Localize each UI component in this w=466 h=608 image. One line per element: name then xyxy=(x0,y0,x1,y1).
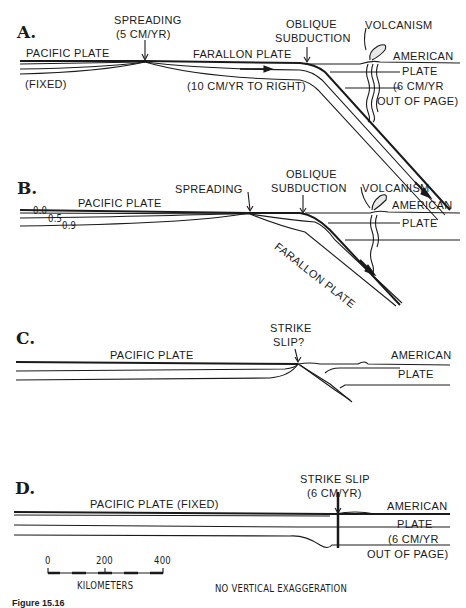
b-volcanism-label: VOLCANISM xyxy=(362,182,430,194)
b-american-label: AMERICAN xyxy=(392,199,452,211)
panel-c-lines xyxy=(16,349,450,402)
b-plate-label: PLATE xyxy=(402,217,438,229)
d-american-direction: OUT OF PAGE) xyxy=(367,548,448,560)
a-pacific-note: (FIXED) xyxy=(25,78,67,90)
panel-b-letter: B. xyxy=(17,178,37,198)
a-farallon-rate: (10 CM/YR TO RIGHT) xyxy=(187,80,306,92)
a-pacific-label: PACIFIC PLATE xyxy=(26,47,110,59)
c-strike-label-1: STRIKE xyxy=(270,322,312,334)
a-spreading-rate: (5 CM/YR) xyxy=(116,28,171,40)
d-american-label: AMERICAN xyxy=(387,500,447,512)
b-contour-1: 0.5 xyxy=(48,213,62,225)
d-pacific-label: PACIFIC PLATE (FIXED) xyxy=(90,498,219,510)
a-volcanism-label: VOLCANISM xyxy=(365,19,433,31)
d-american-rate: (6 CM/YR xyxy=(388,533,439,545)
d-strike-label-1: STRIKE SLIP xyxy=(300,473,370,485)
panel-d-lines xyxy=(14,492,450,573)
b-spreading-label: SPREADING xyxy=(175,183,243,195)
a-spreading-label: SPREADING xyxy=(114,14,182,26)
c-american-label: AMERICAN xyxy=(391,349,451,361)
a-oblique-label-2: SUBDUCTION xyxy=(275,32,351,44)
c-strike-label-2: SLIP? xyxy=(273,336,304,348)
b-contour-2: 0.9 xyxy=(62,220,76,232)
c-pacific-label: PACIFIC PLATE xyxy=(110,349,194,361)
a-farallon-label: FARALLON PLATE xyxy=(193,48,292,60)
panel-a-letter: A. xyxy=(17,22,36,42)
b-pacific-label: PACIFIC PLATE xyxy=(78,197,162,209)
a-oblique-label-1: OBLIQUE xyxy=(286,18,337,30)
d-strike-label-2: (6 CM/YR) xyxy=(307,487,362,499)
scale-unit-label: KILOMETERS xyxy=(77,580,133,592)
panel-d-letter: D. xyxy=(15,478,35,498)
scale-tick-400: 400 xyxy=(154,555,171,567)
d-plate-label: PLATE xyxy=(397,518,433,530)
b-oblique-label-1: OBLIQUE xyxy=(286,168,337,180)
a-american-label: AMERICAN xyxy=(393,50,453,62)
a-american-rate: (6 CM/YR xyxy=(393,80,444,92)
b-oblique-label-2: SUBDUCTION xyxy=(271,182,347,194)
c-plate-label: PLATE xyxy=(398,368,434,380)
figure-caption: Figure 15.16 xyxy=(12,598,65,608)
vertical-exaggeration-note: NO VERTICAL EXAGGERATION xyxy=(215,583,347,595)
panel-c-letter: C. xyxy=(16,328,35,348)
a-plate-label: PLATE xyxy=(402,65,438,77)
b-contour-0: 0.0 xyxy=(33,205,47,217)
scale-tick-0: 0 xyxy=(45,555,51,567)
scale-tick-200: 200 xyxy=(96,555,113,567)
a-american-direction: OUT OF PAGE) xyxy=(377,95,458,107)
